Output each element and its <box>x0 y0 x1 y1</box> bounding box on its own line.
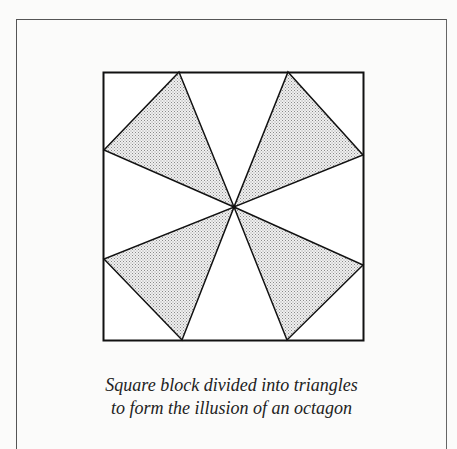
caption-line-2: to form the illusion of an octagon <box>16 397 447 420</box>
figure-caption: Square block divided into triangles to f… <box>16 374 447 420</box>
caption-line-1: Square block divided into triangles <box>16 374 447 397</box>
center-point <box>232 205 236 209</box>
